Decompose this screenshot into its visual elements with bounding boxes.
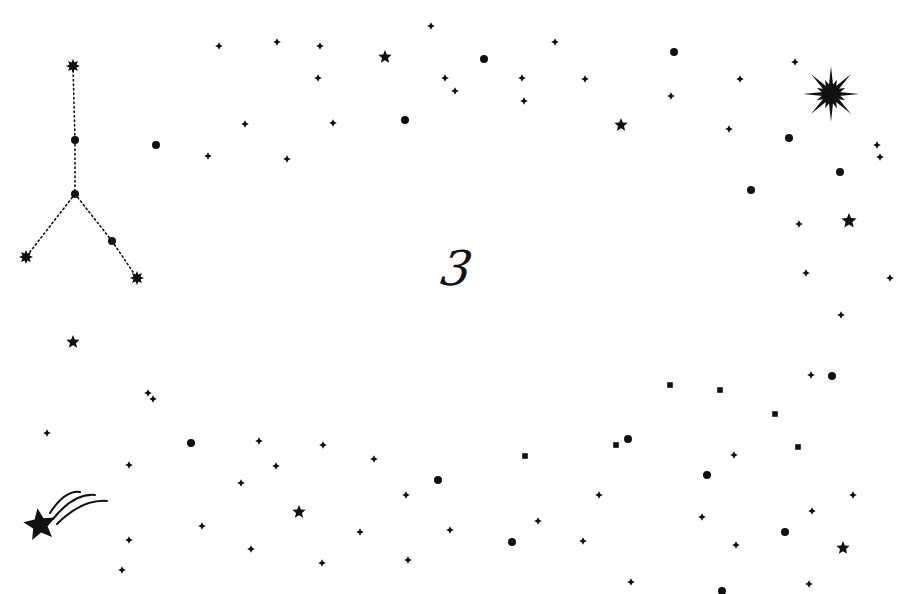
sparkle-icon [441,74,449,82]
five-point-star-icon [614,118,627,131]
sparkle-icon [736,75,744,83]
sparkle-icon [427,22,435,30]
burst-star-icon [66,59,80,73]
five-point-star-icon [836,541,849,554]
shooting-star-trail [57,501,107,524]
sparkle-icon [144,389,152,397]
sparkle-icon [732,541,740,549]
sparkle-icon [837,311,845,319]
constellation-line [75,194,112,241]
star-dot-icon [71,190,79,198]
star-dot-icon [152,141,160,149]
starry-sky-illustration [0,0,919,594]
sparkle-icon [204,152,212,160]
sparkle-icon [627,578,635,586]
sparkle-icon [237,479,245,487]
constellation-line [26,194,75,257]
constellation-line [73,66,75,140]
sparkle-icon [215,42,223,50]
sparkle-icon [698,513,706,521]
five-point-star-icon [66,335,79,348]
constellation-line [112,241,137,278]
sparkle-icon [667,92,675,100]
star-dot-icon [828,372,836,380]
sparkle-icon [316,42,324,50]
star-dot-icon [108,237,116,245]
star-dot-icon [480,55,488,63]
star-dot-icon [434,476,442,484]
sparkle-icon [319,441,327,449]
handwritten-digit: 3 [428,243,485,293]
sparkle-icon [356,528,364,536]
burst-star-icon [130,271,144,285]
square-star-icon [795,444,801,450]
shooting-star-trail [53,495,95,519]
sparkle-icon [849,491,857,499]
sparkle-icon [283,155,291,163]
sparkle-icon [125,461,133,469]
sparkle-icon [886,274,894,282]
sparkle-icon [873,141,881,149]
sparkle-icon [791,58,799,66]
sparkle-icon [795,220,803,228]
sparkle-icon [402,491,410,499]
sparkle-icon [725,125,733,133]
star-dot-icon [401,116,409,124]
star-dot-icon [508,538,516,546]
sparkle-icon [579,537,587,545]
star-dot-icon [781,528,789,536]
star-dot-icon [718,587,726,594]
five-point-star-icon [378,50,391,63]
star-dot-icon [624,435,632,443]
sparkle-icon [255,437,263,445]
sparkle-icon [808,507,816,515]
sparkle-icon [595,491,603,499]
sparkle-icon [518,74,526,82]
sparkle-icon [272,462,280,470]
sparkle-icon [876,153,884,161]
sparkle-icon [125,536,133,544]
sparkle-icon [534,517,542,525]
star-dot-icon [71,136,79,144]
sparkle-icon [314,74,322,82]
sparkle-icon [198,522,206,530]
square-star-icon [772,411,778,417]
sparkle-icon [404,556,412,564]
star-dot-icon [187,439,195,447]
sparkle-icon [520,97,528,105]
sparkle-icon [247,545,255,553]
sparkle-icon [370,455,378,463]
star-dot-icon [785,134,793,142]
star-dot-icon [670,48,678,56]
sparkle-icon [318,559,326,567]
square-star-icon [717,387,723,393]
sparkle-icon [446,526,454,534]
sparkle-icon [241,120,249,128]
sparkle-icon [807,371,815,379]
sparkle-icon [43,429,51,437]
square-star-icon [667,382,673,388]
square-star-icon [522,453,528,459]
sparkle-icon [802,269,810,277]
sparkle-icon [581,75,589,83]
star-dot-icon [747,186,755,194]
constellation [19,59,144,285]
star-field [43,22,894,594]
sparkle-icon [805,580,813,588]
five-point-star-icon [841,213,856,227]
five-point-star-icon [292,505,305,518]
sparkle-icon [551,38,559,46]
sparkle-icon [118,566,126,574]
star-dot-icon [836,168,844,176]
sparkle-icon [149,395,157,403]
sparkle-icon [273,38,281,46]
sparkle-icon [451,87,459,95]
square-star-icon [613,442,619,448]
star-dot-icon [703,471,711,479]
sparkle-icon [329,119,337,127]
burst-star-icon [19,250,33,264]
sparkle-icon [730,451,738,459]
